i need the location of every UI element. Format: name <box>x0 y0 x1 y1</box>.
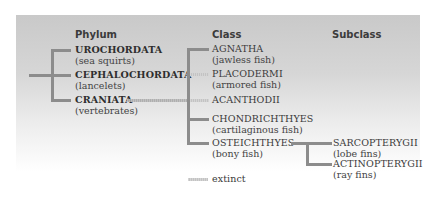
taxon-common-name: (vertebrates) <box>75 105 138 116</box>
taxon-actinopterygii: ACTINOPTERYGII (ray fins) <box>333 158 423 180</box>
taxon-sarcopterygii: SARCOPTERYGII (lobe fins) <box>333 137 418 159</box>
taxon-name: AGNATHA <box>212 43 275 54</box>
taxon-chondrichthyes: CHONDRICHTHYES (cartilaginous fish) <box>212 113 313 135</box>
taxon-common-name: (jawless fish) <box>212 54 275 65</box>
taxon-name: ACTINOPTERYGII <box>333 158 423 169</box>
taxon-name: SARCOPTERYGII <box>333 137 418 148</box>
branch-chondrichthyes <box>187 118 209 121</box>
legend-extinct-swatch <box>188 178 208 181</box>
branch-acanthodii-extinct <box>190 99 209 102</box>
taxon-craniata: CRANIATA (vertebrates) <box>75 94 138 116</box>
class-bracket-line <box>187 48 190 144</box>
taxon-name: UROCHORDATA <box>75 44 162 55</box>
header-class: Class <box>212 29 241 40</box>
legend-extinct-label: extinct <box>212 173 246 184</box>
osteichthyes-to-subclass-line <box>291 142 332 145</box>
taxon-common-name: (armored fish) <box>212 79 283 90</box>
taxon-acanthodii: ACANTHODII <box>212 94 280 105</box>
taxon-common-name: (ray fins) <box>333 169 423 180</box>
taxon-common-name: (cartilaginous fish) <box>212 124 313 135</box>
craniata-to-class-line <box>127 99 188 102</box>
branch-agnatha <box>187 48 209 51</box>
taxon-urochordata: UROCHORDATA (sea squirts) <box>75 44 162 66</box>
header-phylum: Phylum <box>75 29 117 40</box>
taxon-name: OSTEICHTHYES <box>212 137 294 148</box>
legend-extinct: extinct <box>212 173 246 184</box>
taxon-common-name: (bony fish) <box>212 148 294 159</box>
taxon-cephalochordata: CEPHALOCHORDATA (lancelets) <box>75 69 191 91</box>
taxon-name: CEPHALOCHORDATA <box>75 69 191 80</box>
taxon-name: CHONDRICHTHYES <box>212 113 313 124</box>
branch-actinopterygii <box>306 163 332 166</box>
branch-craniata <box>51 99 71 102</box>
taxon-common-name: (lancelets) <box>75 80 191 91</box>
taxon-osteichthyes: OSTEICHTHYES (bony fish) <box>212 137 294 159</box>
taxon-name: PLACODERMI <box>212 68 283 79</box>
taxon-common-name: (sea squirts) <box>75 55 162 66</box>
branch-cephalochordata <box>51 74 71 77</box>
branch-urochordata <box>51 49 71 52</box>
taxon-name: ACANTHODII <box>212 94 280 105</box>
branch-placodermi-extinct <box>190 73 209 76</box>
taxon-agnatha: AGNATHA (jawless fish) <box>212 43 275 65</box>
root-branch-line <box>29 74 53 77</box>
taxon-placodermi: PLACODERMI (armored fish) <box>212 68 283 90</box>
branch-osteichthyes <box>187 142 209 145</box>
header-subclass: Subclass <box>332 29 382 40</box>
